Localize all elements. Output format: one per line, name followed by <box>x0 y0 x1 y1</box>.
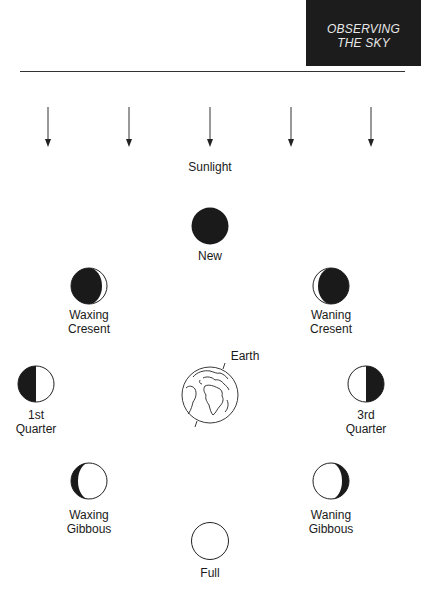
phase-label-line: 1st <box>16 408 57 422</box>
phase-label-line: Waxing <box>67 508 112 522</box>
sunlight-arrow-icon <box>45 107 51 147</box>
phase-label-waxing-crescent: Waxing Cresent <box>68 308 110 336</box>
phase-label-line: Gibbous <box>67 522 112 536</box>
phase-label-line: Waning <box>309 508 354 522</box>
phase-label-new: New <box>198 249 222 263</box>
phase-label-line: Cresent <box>68 322 110 336</box>
phase-label-line: Full <box>200 566 219 580</box>
phase-label-line: 3rd <box>346 408 387 422</box>
phase-label-waning-crescent: Waning Cresent <box>310 308 352 336</box>
phase-label-waxing-gibbous: Waxing Gibbous <box>67 508 112 536</box>
sunlight-arrows <box>45 107 374 147</box>
waning-gibbous-moon-icon <box>313 463 349 499</box>
sunlight-arrow-icon <box>288 107 294 147</box>
sunlight-arrow-icon <box>207 107 213 147</box>
phase-label-full: Full <box>200 566 219 580</box>
phase-label-line: Quarter <box>16 422 57 436</box>
waxing-gibbous-moon-icon <box>71 463 107 499</box>
earth-label: Earth <box>231 349 260 363</box>
phase-label-line: Waning <box>310 308 352 322</box>
phase-label-line: Cresent <box>310 322 352 336</box>
third-quarter-moon-icon <box>348 366 384 402</box>
new-moon-icon <box>192 208 229 245</box>
sunlight-arrow-icon <box>126 107 132 147</box>
waning-crescent-moon-icon <box>313 268 349 304</box>
full-moon-icon <box>192 523 229 560</box>
sunlight-arrow-icon <box>368 107 374 147</box>
sunlight-label: Sunlight <box>188 160 231 174</box>
phase-label-line: Waxing <box>68 308 110 322</box>
first-quarter-moon-icon <box>18 366 54 402</box>
phase-label-third-quarter: 3rd Quarter <box>346 408 387 436</box>
phase-label-waning-gibbous: Waning Gibbous <box>309 508 354 536</box>
phase-label-line: New <box>198 249 222 263</box>
moon-phase-diagram <box>0 0 421 595</box>
phase-label-line: Gibbous <box>309 522 354 536</box>
phase-label-first-quarter: 1st Quarter <box>16 408 57 436</box>
earth-globe-icon <box>182 363 238 427</box>
waxing-crescent-moon-icon <box>71 268 107 304</box>
phase-label-line: Quarter <box>346 422 387 436</box>
